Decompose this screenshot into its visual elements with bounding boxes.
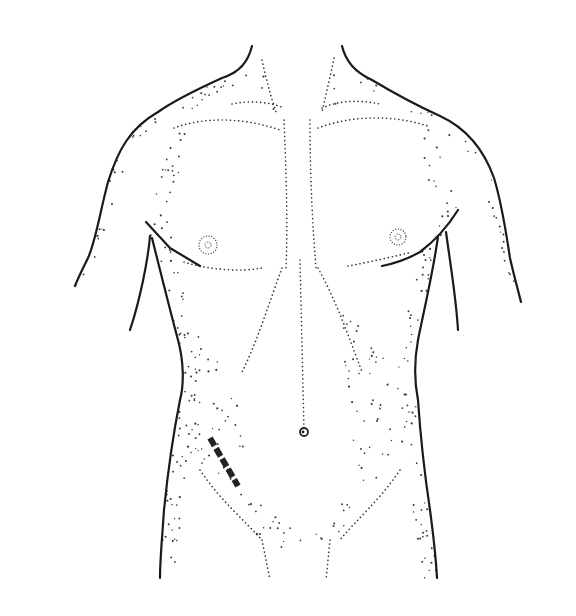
dotted-contours bbox=[174, 58, 428, 580]
right-pec-shade-area bbox=[412, 126, 458, 240]
right-inguinal-contour bbox=[340, 470, 400, 540]
left-flank-outline bbox=[152, 238, 183, 578]
left-inguinal-contour bbox=[200, 470, 262, 540]
right-pec-top-contour bbox=[318, 118, 428, 128]
right-abdomen-shade-area bbox=[340, 300, 410, 480]
linea-alba-contour bbox=[300, 260, 304, 430]
sternum-right-contour bbox=[310, 120, 316, 268]
right-flank-outline bbox=[415, 236, 438, 578]
incision-line bbox=[210, 438, 238, 486]
right-abdomen-shade bbox=[342, 315, 405, 469]
right-scm-contour bbox=[322, 58, 334, 112]
right-pec-bottom-contour bbox=[348, 252, 412, 266]
body-outline bbox=[75, 46, 521, 578]
navel bbox=[300, 428, 308, 436]
right-arm-inner-outline bbox=[446, 232, 458, 330]
torso-drawing bbox=[0, 0, 576, 616]
left-arm-inner-outline bbox=[130, 236, 150, 330]
left-pec-top-contour bbox=[174, 120, 280, 130]
right-nipple bbox=[390, 229, 406, 245]
sternum-left-contour bbox=[284, 120, 287, 268]
left-pec-shade-area bbox=[150, 130, 196, 240]
left-abdomen-shade-area bbox=[195, 330, 250, 474]
stipple-shading bbox=[78, 46, 520, 579]
torso-illustration bbox=[0, 0, 576, 616]
left-thigh-contour bbox=[262, 540, 270, 580]
costal-left-contour bbox=[242, 268, 282, 372]
costal-right-contour bbox=[318, 268, 362, 372]
neck-shade-area bbox=[258, 60, 336, 114]
incision-marking bbox=[210, 438, 238, 486]
right-thigh-contour bbox=[326, 540, 330, 580]
right-clavicle-contour bbox=[322, 101, 380, 108]
right-shoulder-outline bbox=[342, 46, 521, 302]
left-pec-shade bbox=[150, 132, 186, 238]
anatomical-features bbox=[199, 229, 406, 436]
left-nipple bbox=[199, 236, 217, 254]
lower-abdomen-shade-area bbox=[230, 400, 410, 555]
left-clavicle-contour bbox=[232, 102, 284, 108]
